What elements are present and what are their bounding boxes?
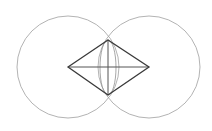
two-circles-rhombus-diagram	[0, 0, 212, 131]
